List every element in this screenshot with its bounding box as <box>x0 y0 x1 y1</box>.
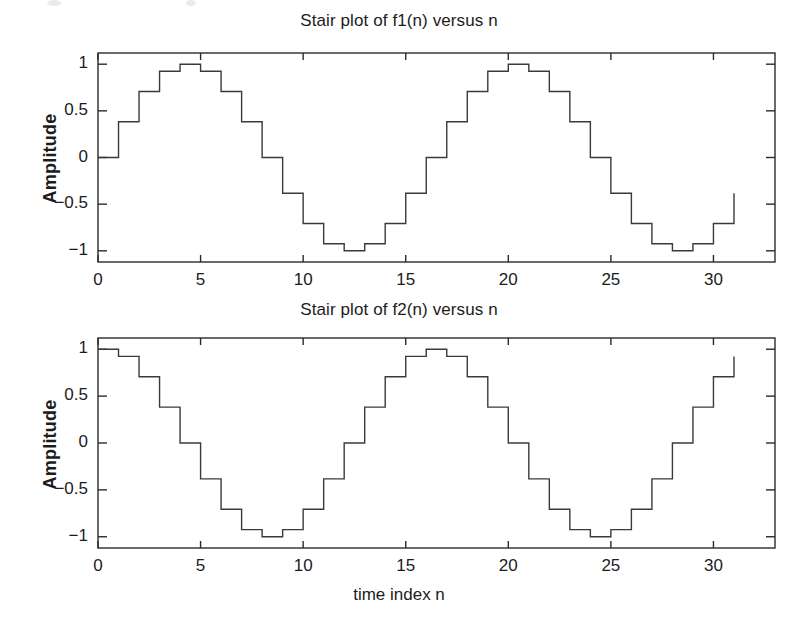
y-tick-label: 0.5 <box>30 100 88 120</box>
stairs-trace <box>98 64 734 251</box>
x-tick-label: 25 <box>581 556 641 576</box>
y-tick-label: 0 <box>30 432 88 452</box>
y-tick-label: 0.5 <box>30 385 88 405</box>
stairs-trace <box>98 349 734 537</box>
x-tick-label: 30 <box>683 556 743 576</box>
y-tick-label: −1 <box>30 240 88 260</box>
x-tick-label: 5 <box>171 556 231 576</box>
axes-f1 <box>0 0 798 300</box>
y-tick-label: 0 <box>30 147 88 167</box>
figure-canvas: Stair plot of f1(n) versus n Amplitude 0… <box>0 0 798 623</box>
y-tick-label: −1 <box>30 526 88 546</box>
y-tick-label: −0.5 <box>30 479 88 499</box>
x-tick-label: 10 <box>273 556 333 576</box>
y-tick-label: 1 <box>30 53 88 73</box>
plot-panel-f2: Stair plot of f2(n) versus n Amplitude t… <box>0 286 798 623</box>
y-tick-label: 1 <box>30 338 88 358</box>
x-tick-label: 15 <box>376 556 436 576</box>
x-tick-label: 20 <box>478 556 538 576</box>
x-axis-label-f2: time index n <box>0 585 798 605</box>
y-tick-label: −0.5 <box>30 193 88 213</box>
x-tick-label: 0 <box>68 556 128 576</box>
plot-panel-f1: Stair plot of f1(n) versus n Amplitude 0… <box>0 0 798 300</box>
